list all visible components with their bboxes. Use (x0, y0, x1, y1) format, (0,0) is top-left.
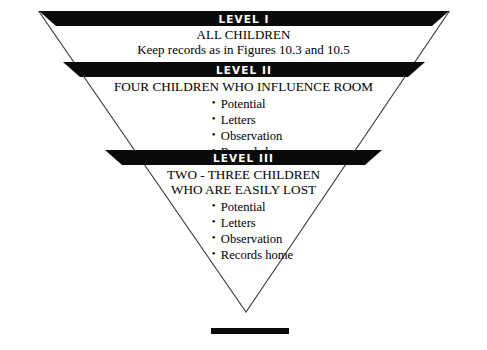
level-1-heading: ALL CHILDREN (0, 28, 487, 43)
level-3-bullet-list: Potential Letters Observation Records ho… (212, 200, 293, 264)
level-2-heading: FOUR CHILDREN WHO INFLUENCE ROOM (0, 80, 487, 95)
bottom-rule (211, 328, 289, 334)
list-item: Records home (212, 248, 293, 264)
level-1-banner-label: LEVEL I (218, 14, 269, 25)
level-2-banner-label: LEVEL II (216, 65, 272, 76)
list-item: Observation (212, 232, 293, 248)
level-3-content: TWO - THREE CHILDREN WHO ARE EASILY LOST… (0, 168, 487, 264)
list-item: Observation (212, 129, 293, 145)
list-item: Potential (212, 200, 293, 216)
level-3-subheading: WHO ARE EASILY LOST (0, 183, 487, 198)
list-item: Potential (212, 97, 293, 113)
level-2-content: FOUR CHILDREN WHO INFLUENCE ROOM Potenti… (0, 80, 487, 161)
figure-inverted-triangle-levels: LEVEL I ALL CHILDREN Keep records as in … (0, 0, 487, 350)
level-1-note: Keep records as in Figures 10.3 and 10.5 (0, 43, 487, 58)
level-3-banner-label: LEVEL III (213, 153, 274, 164)
list-item: Letters (212, 216, 293, 232)
level-1-banner: LEVEL I (39, 11, 449, 26)
list-item: Letters (212, 113, 293, 129)
level-1-content: ALL CHILDREN Keep records as in Figures … (0, 28, 487, 57)
level-3-banner: LEVEL III (105, 150, 382, 165)
level-3-heading: TWO - THREE CHILDREN (0, 168, 487, 183)
level-2-banner: LEVEL II (63, 62, 425, 77)
